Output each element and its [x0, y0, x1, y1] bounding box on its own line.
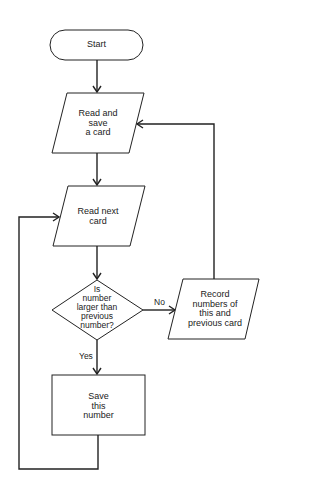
edge-label-yes: Yes — [79, 351, 93, 361]
connector-record-to-read-save — [137, 124, 214, 279]
save-number-label: Save this number — [52, 392, 145, 421]
read-next-card-label: Read next card — [58, 207, 138, 226]
start-label: Start — [50, 40, 143, 50]
edge-label-no: No — [154, 297, 165, 307]
record-numbers-label: Record numbers of this and previous card — [170, 290, 260, 328]
read-save-card-label: Read and save a card — [58, 109, 138, 138]
decision-label: Is number larger than previous number? — [57, 285, 137, 330]
